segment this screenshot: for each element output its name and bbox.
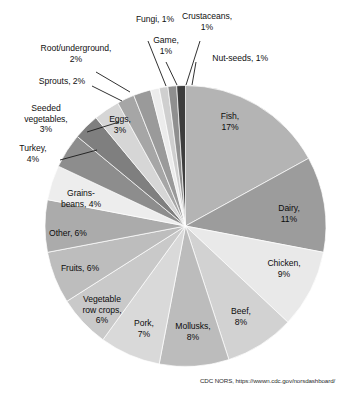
- slice-label-turkey: Turkey, 4%: [6, 143, 60, 164]
- slice-label-root-underground: Root/underground, 2%: [22, 43, 130, 64]
- leader-line-game: [166, 62, 177, 85]
- slice-label-eggs: Eggs, 3%: [99, 114, 141, 135]
- slice-label-mollusks: Mollusks, 8%: [165, 321, 221, 342]
- slice-label-dairy: Dairy, 11%: [265, 203, 313, 224]
- slice-label-beef: Beef, 8%: [220, 306, 262, 327]
- slice-label-other: Other, 6%: [37, 228, 99, 239]
- leader-line-sprouts: [92, 86, 122, 101]
- slice-label-sprouts: Sprouts, 2%: [20, 76, 104, 87]
- slice-label-fruits: Fruits, 6%: [49, 263, 111, 274]
- pie-chart-figure: Fungi, 1% Game, 1% Crustaceans, 1% Nut-s…: [0, 0, 344, 398]
- slice-label-chicken: Chicken, 9%: [256, 258, 312, 279]
- slice-label-grains-beans: Grains- beans, 4%: [50, 188, 112, 209]
- slice-label-crustaceans: Crustaceans, 1%: [164, 11, 250, 32]
- slice-label-fish: Fish, 17%: [206, 111, 254, 132]
- slice-label-seeded-vegetables: Seeded vegetables, 3%: [8, 103, 84, 135]
- slice-label-vegetable-row-crops: Vegetable row crops, 6%: [67, 294, 137, 326]
- source-attribution: CDC NORS, https://wwwn.cdc.gov/norsdashb…: [200, 377, 335, 384]
- slice-label-nut-seeds: Nut-seeds, 1%: [176, 53, 268, 64]
